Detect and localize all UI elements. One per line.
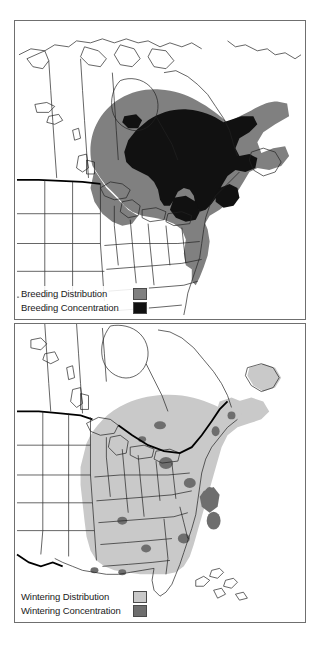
legend-item-wintering-distribution: Wintering Distribution: [21, 590, 147, 603]
legend-label: Wintering Distribution: [21, 590, 131, 603]
legend-item-breeding-concentration: Breeding Concentration: [21, 301, 147, 314]
breeding-legend: Breeding Distribution Breeding Concentra…: [19, 286, 149, 315]
figure-sheet: Breeding Distribution Breeding Concentra…: [0, 0, 323, 647]
legend-label: Wintering Concentration: [21, 604, 131, 617]
legend-swatch-icon: [133, 605, 147, 617]
breeding-range-map: Breeding Distribution Breeding Concentra…: [14, 20, 306, 320]
legend-swatch-icon: [133, 302, 147, 314]
legend-swatch-icon: [133, 288, 147, 300]
legend-label: Breeding Distribution: [21, 287, 131, 300]
legend-item-wintering-concentration: Wintering Concentration: [21, 604, 147, 617]
wintering-legend: Wintering Distribution Wintering Concent…: [19, 589, 149, 618]
breeding-map-graphic: [15, 21, 305, 319]
wintering-map-graphic: [15, 324, 305, 622]
legend-swatch-icon: [133, 591, 147, 603]
legend-item-breeding-distribution: Breeding Distribution: [21, 287, 147, 300]
wintering-range-map: Wintering Distribution Wintering Concent…: [14, 323, 306, 623]
legend-label: Breeding Concentration: [21, 301, 131, 314]
